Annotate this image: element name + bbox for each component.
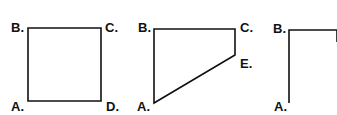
- figure-trapezoid: B. C. E. A.: [137, 20, 253, 114]
- trapezoid-outline: [154, 29, 235, 103]
- square-outline: [28, 28, 101, 101]
- figure-square: B. C. A. D.: [11, 20, 119, 114]
- label-e: E.: [240, 56, 252, 71]
- label-b: B.: [138, 20, 151, 35]
- figure-triangle: B. A.: [273, 21, 337, 114]
- geometry-diagram: B. C. A. D. B. C. E. A. B. A.: [0, 0, 337, 115]
- label-b: B.: [11, 20, 24, 35]
- label-d: D.: [106, 99, 119, 114]
- triangle-outline: [289, 30, 337, 103]
- label-c: C.: [105, 20, 118, 35]
- label-a: A.: [137, 99, 150, 114]
- label-c: C.: [240, 20, 253, 35]
- label-a: A.: [274, 99, 287, 114]
- label-a: A.: [11, 99, 24, 114]
- label-b: B.: [273, 21, 286, 36]
